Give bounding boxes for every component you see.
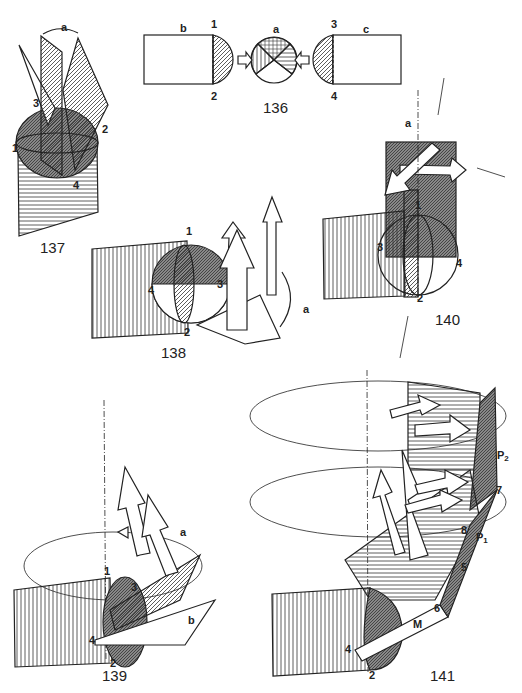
fig137-point-4: 4: [73, 180, 79, 191]
fig140-point-4: 4: [456, 258, 462, 269]
fig141-point-6: 6: [434, 603, 440, 614]
fig136-point-1: 1: [211, 19, 217, 30]
fig141-point-7: 7: [496, 485, 502, 496]
fig139-point-4: 4: [89, 635, 95, 646]
fig140-point-2: 2: [417, 293, 423, 304]
figure-136: [144, 35, 401, 84]
figures-canvas: [0, 0, 522, 693]
fig141-point-2: 2: [369, 670, 375, 681]
fig141-label-P2: P2: [497, 450, 509, 463]
fig140-label-a: a: [405, 118, 411, 129]
figure-141: [250, 370, 506, 676]
fig138-point-3: 3: [217, 279, 223, 290]
fig138-label-a: a: [303, 304, 309, 315]
fig136-point-2: 2: [211, 91, 217, 102]
fig137-label-a: a: [61, 22, 67, 33]
figure-140: [323, 78, 505, 358]
fig141-point-8: 8: [461, 525, 467, 536]
fig140-point-3: 3: [377, 242, 383, 253]
fig141-number: 141: [430, 668, 455, 683]
fig136-point-4: 4: [331, 91, 337, 102]
fig139-label-a: a: [180, 527, 186, 538]
fig140-point-1: 1: [415, 200, 421, 211]
fig139-number: 139: [102, 668, 127, 683]
fig138-point-4: 4: [148, 285, 154, 296]
figure-137: [16, 29, 108, 236]
fig140-number: 140: [435, 312, 460, 327]
fig141-point-5: 5: [461, 562, 467, 573]
fig139-label-b: b: [188, 615, 195, 626]
fig141-label-P1: P1: [476, 532, 488, 545]
fig136-label-a: a: [273, 24, 279, 35]
fig136-point-3: 3: [331, 19, 337, 30]
fig141-P1-subscript: 1: [483, 536, 487, 545]
fig137-point-2: 2: [102, 124, 108, 135]
fig137-number: 137: [40, 240, 65, 255]
figure-138: [92, 197, 291, 344]
fig138-number: 138: [161, 345, 186, 360]
fig137-point-1: 1: [12, 143, 18, 154]
fig141-P2-subscript: 2: [504, 454, 508, 463]
fig136-number: 136: [263, 100, 288, 115]
fig139-point-1: 1: [104, 566, 110, 577]
fig138-point-1: 1: [186, 226, 192, 237]
fig141-label-M: M: [413, 619, 422, 630]
fig138-point-2: 2: [184, 327, 190, 338]
fig136-label-b: b: [180, 23, 187, 34]
fig137-point-3: 3: [33, 98, 39, 109]
fig141-point-4: 4: [345, 644, 351, 655]
fig136-label-c: c: [363, 24, 369, 35]
fig139-point-3: 3: [131, 582, 137, 593]
